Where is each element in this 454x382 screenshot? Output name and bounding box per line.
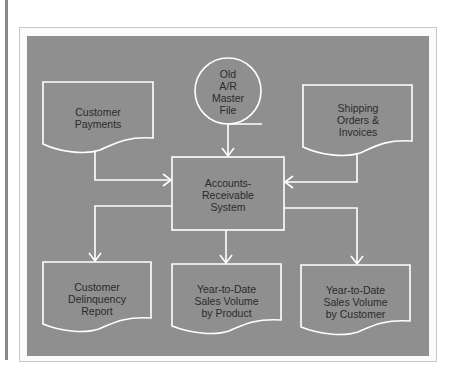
label-sales-by-product: Year-to-Date Sales Volume by Product	[172, 283, 281, 319]
label-shipping-orders: Shipping Orders & Invoices	[305, 102, 411, 138]
label-old-ar-master-file: Old A/R Master File	[188, 68, 268, 116]
label-delinquency-report: Customer Delinquency Report	[43, 281, 151, 317]
label-sales-by-customer: Year-to-Date Sales Volume by Customer	[301, 284, 410, 320]
label-ar-system: Accounts- Receivable System	[172, 177, 284, 213]
label-customer-payments: Customer Payments	[48, 106, 148, 130]
